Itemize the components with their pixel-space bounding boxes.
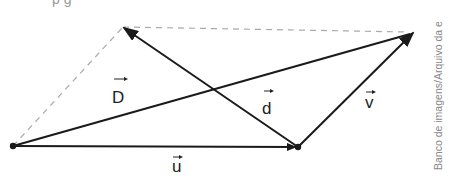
vertex-point [295, 144, 301, 150]
dashed-line-top [123, 27, 408, 32]
origin-point [10, 143, 16, 149]
vector-diagram: D d v u [0, 0, 460, 178]
dashed-line-left [13, 27, 123, 146]
image-credit: Banco de imagens/Arquivo da e [432, 21, 444, 170]
vector-d [124, 28, 298, 147]
svg-text:v: v [365, 93, 374, 112]
label-u: u [172, 155, 183, 176]
label-v: v [365, 90, 376, 112]
vector-u [13, 146, 296, 147]
svg-text:d: d [262, 99, 271, 118]
svg-text:D: D [112, 88, 124, 107]
label-D: D [112, 77, 128, 107]
label-d: d [262, 89, 274, 118]
vector-D [13, 34, 410, 146]
svg-text:u: u [172, 157, 181, 176]
